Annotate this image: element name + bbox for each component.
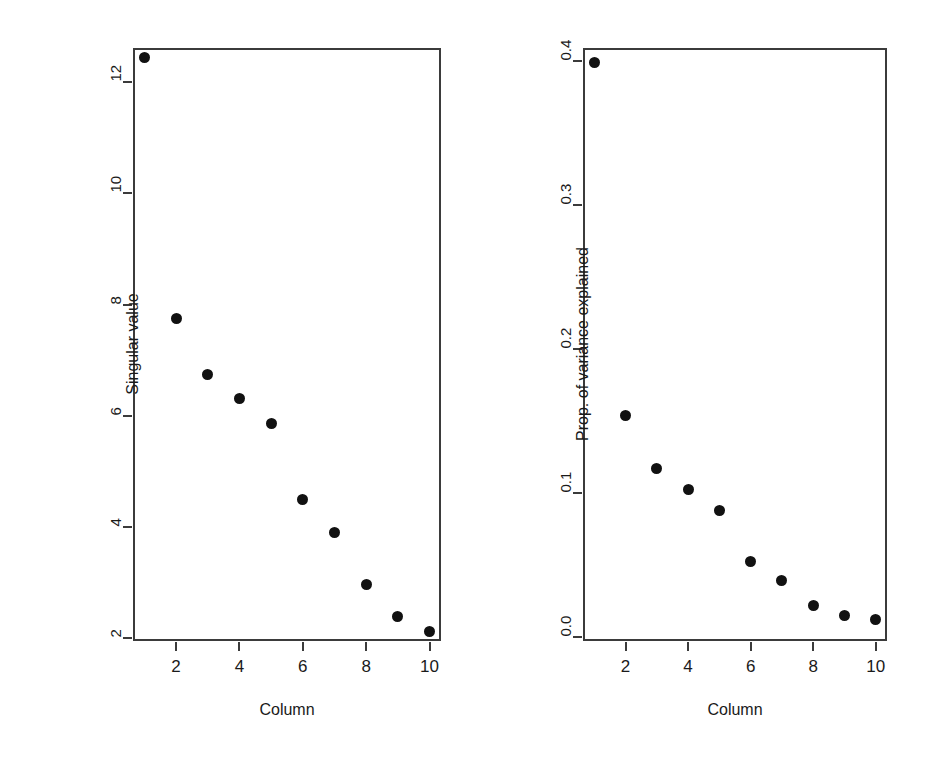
- data-point: [266, 418, 277, 429]
- x-tick-mark: [687, 642, 689, 651]
- y-tick-mark: [123, 526, 132, 528]
- x-tick-label: 4: [668, 657, 708, 677]
- y-tick-mark: [573, 636, 582, 638]
- x-tick-label: 6: [283, 657, 323, 677]
- figure-canvas: 24681012 246810 Singular value Column 0.…: [0, 0, 931, 760]
- data-point: [714, 505, 725, 516]
- plot-frame-left: [133, 48, 441, 641]
- y-axis-title-right: Prop. of variance explained: [574, 244, 592, 444]
- plot-frame-right: [583, 48, 887, 641]
- data-point: [424, 626, 435, 637]
- x-axis-title-right: Column: [635, 701, 835, 719]
- x-tick-mark: [429, 642, 431, 651]
- y-tick-mark: [123, 637, 132, 639]
- y-tick-mark: [573, 492, 582, 494]
- data-point: [683, 484, 694, 495]
- y-tick-mark: [573, 60, 582, 62]
- x-tick-label: 8: [346, 657, 386, 677]
- y-tick-mark: [123, 192, 132, 194]
- x-tick-label: 6: [731, 657, 771, 677]
- data-point: [589, 57, 600, 68]
- data-point: [808, 600, 819, 611]
- y-tick-mark: [573, 204, 582, 206]
- panel-prop-variance: 0.00.10.20.30.4 246810 Prop. of variance…: [466, 0, 931, 760]
- x-tick-mark: [175, 642, 177, 651]
- x-tick-mark: [812, 642, 814, 651]
- data-point: [620, 410, 631, 421]
- x-tick-label: 10: [410, 657, 450, 677]
- x-tick-mark: [238, 642, 240, 651]
- panel-singular-value: 24681012 246810 Singular value Column: [0, 0, 465, 760]
- x-tick-mark: [625, 642, 627, 651]
- x-tick-label: 10: [856, 657, 896, 677]
- x-tick-mark: [750, 642, 752, 651]
- x-tick-mark: [875, 642, 877, 651]
- x-tick-mark: [302, 642, 304, 651]
- x-tick-mark: [365, 642, 367, 651]
- x-axis-title-left: Column: [187, 701, 387, 719]
- x-tick-label: 2: [606, 657, 646, 677]
- data-point: [329, 527, 340, 538]
- y-tick-mark: [123, 81, 132, 83]
- x-tick-label: 8: [793, 657, 833, 677]
- y-axis-title-left: Singular value: [124, 244, 142, 444]
- x-tick-label: 4: [219, 657, 259, 677]
- data-point: [839, 610, 850, 621]
- x-tick-label: 2: [156, 657, 196, 677]
